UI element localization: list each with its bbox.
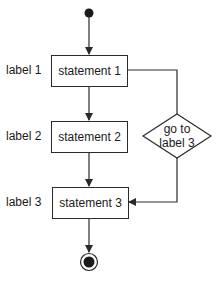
statement-2-text: statement 2 bbox=[58, 130, 121, 144]
statement-2-box: statement 2 bbox=[51, 121, 128, 153]
edge-s1-goto bbox=[128, 70, 177, 114]
goto-line-2: label 3 bbox=[147, 136, 207, 150]
edge-goto-s3 bbox=[129, 158, 177, 202]
label-1: label 1 bbox=[6, 63, 41, 77]
statement-3-text: statement 3 bbox=[59, 196, 122, 210]
goto-line-1: go to bbox=[147, 122, 207, 136]
start-node bbox=[85, 9, 94, 18]
label-3: label 3 bbox=[6, 195, 41, 209]
final-node-dot bbox=[84, 257, 95, 268]
statement-3-box: statement 3 bbox=[52, 187, 129, 219]
label-2: label 2 bbox=[6, 129, 41, 143]
statement-1-text: statement 1 bbox=[58, 64, 121, 78]
statement-1-box: statement 1 bbox=[51, 55, 128, 87]
goto-decision-text: go to label 3 bbox=[147, 122, 207, 150]
